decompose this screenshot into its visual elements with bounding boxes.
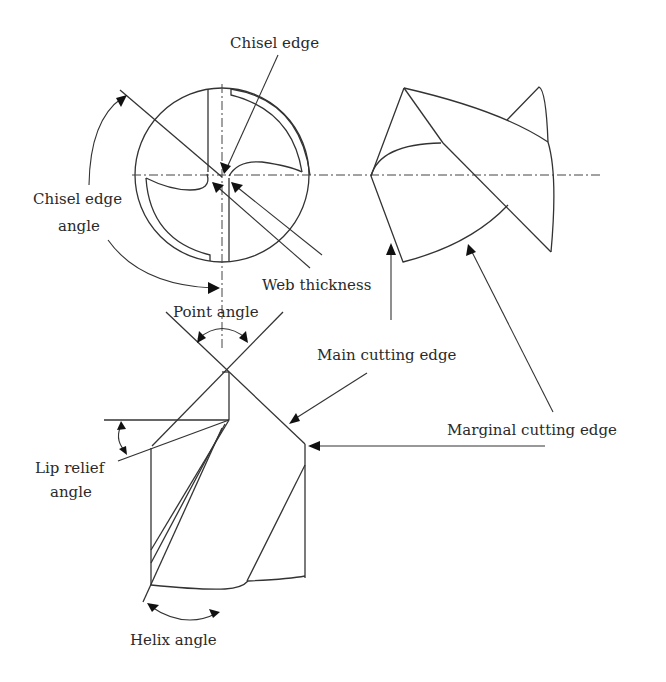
point-top-edge bbox=[404, 88, 548, 142]
label-chisel-edge: Chisel edge bbox=[230, 34, 319, 52]
end-view bbox=[89, 55, 600, 350]
marginal-edge-arrowhead-up bbox=[466, 244, 476, 256]
label-helix-angle: Helix angle bbox=[130, 631, 217, 649]
label-web-thickness: Web thickness bbox=[262, 276, 371, 294]
point-angle-line-right bbox=[152, 312, 283, 446]
chisel-angle-arrowhead-lower bbox=[208, 282, 220, 294]
web-thickness-arrowhead-2 bbox=[231, 182, 243, 193]
lower-flute-margin bbox=[146, 178, 210, 261]
helix-angle-arc bbox=[150, 606, 217, 620]
chisel-angle-arc-lower bbox=[108, 240, 213, 288]
point-angle-arrowhead-left bbox=[197, 331, 206, 343]
label-lip-relief-angle-1: Lip relief bbox=[35, 459, 106, 477]
marginal-edge-leader-diagonal bbox=[471, 250, 553, 412]
web-thickness-leader-2 bbox=[232, 183, 322, 255]
chisel-angle-arc-upper bbox=[89, 98, 122, 185]
upper-flute-curve bbox=[229, 162, 302, 176]
main-edge-arrowhead-lower bbox=[289, 413, 300, 424]
marginal-edge-arrowhead-left bbox=[308, 441, 320, 451]
label-marginal-cutting-edge: Marginal cutting edge bbox=[447, 421, 617, 439]
point-right-profile bbox=[507, 87, 554, 252]
drill-nomenclature-diagram: Chisel edge Chisel edge angle Web thickn… bbox=[0, 0, 666, 682]
flute-line-right bbox=[247, 465, 305, 581]
lip-relief-arrowhead-bottom bbox=[119, 446, 127, 455]
label-chisel-edge-angle-1: Chisel edge bbox=[33, 190, 122, 208]
web-thickness-leader-1 bbox=[213, 183, 310, 268]
lower-flute-curve bbox=[146, 174, 208, 190]
point-cutting-diagonal bbox=[443, 143, 551, 252]
flute-line-3 bbox=[143, 428, 222, 602]
label-point-angle: Point angle bbox=[173, 303, 259, 321]
label-lip-relief-angle-2: angle bbox=[50, 483, 92, 501]
point-angle-arrowhead-right bbox=[239, 331, 248, 343]
label-main-cutting-edge: Main cutting edge bbox=[317, 346, 457, 364]
helix-angle-arrowhead-right bbox=[209, 609, 220, 618]
lip-relief-line bbox=[118, 420, 229, 461]
lip-relief-arrowhead-top bbox=[117, 421, 126, 430]
main-edge-leader-lower bbox=[293, 373, 367, 420]
label-chisel-edge-angle-2: angle bbox=[58, 217, 100, 235]
main-edge-arrowhead-up bbox=[386, 243, 396, 255]
body-bottom-break bbox=[151, 576, 305, 589]
